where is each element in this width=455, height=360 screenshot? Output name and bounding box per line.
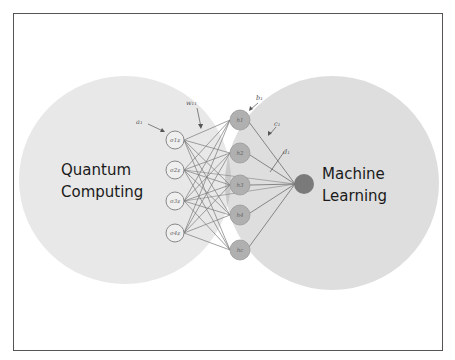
hidden-node: h4 <box>230 205 250 225</box>
quantum-label-line1: Quantum <box>61 161 131 179</box>
quantum-label-line2: Computing <box>61 183 143 201</box>
machine-learning-region <box>225 76 439 290</box>
input-node: σ2z <box>166 161 184 179</box>
d-parameter-label: d₁ <box>283 148 290 156</box>
hidden-node: h3 <box>230 175 250 195</box>
hidden-node: h2 <box>230 143 250 163</box>
svg-text:hc: hc <box>237 247 244 253</box>
input-node: σ1z <box>166 131 184 149</box>
hidden-node: h1 <box>230 110 250 130</box>
svg-text:h1: h1 <box>236 117 243 123</box>
svg-text:h2: h2 <box>236 150 244 156</box>
svg-text:σ3z: σ3z <box>170 198 180 204</box>
c-parameter-label: c₁ <box>274 120 280 128</box>
weight-label: w₁₁ <box>186 99 197 107</box>
machine-label-line2: Learning <box>322 187 387 205</box>
svg-text:σ1z: σ1z <box>170 137 180 143</box>
svg-text:σ4z: σ4z <box>170 230 180 236</box>
input-node: σ4z <box>166 224 184 242</box>
svg-text:h3: h3 <box>236 182 244 188</box>
hidden-node: hc <box>230 240 250 260</box>
svg-text:h4: h4 <box>236 212 244 218</box>
output-node <box>294 174 314 194</box>
machine-label-line1: Machine <box>322 165 385 183</box>
svg-text:σ2z: σ2z <box>170 167 180 173</box>
qc-ml-diagram: σ1z σ2z σ3z σ4z h1 h2 h3 h4 <box>0 0 455 360</box>
input-node: σ3z <box>166 192 184 210</box>
input-bias-label: a₁ <box>136 118 142 126</box>
quantum-computing-region <box>19 76 231 284</box>
hidden-bias-label: b₁ <box>256 94 263 102</box>
